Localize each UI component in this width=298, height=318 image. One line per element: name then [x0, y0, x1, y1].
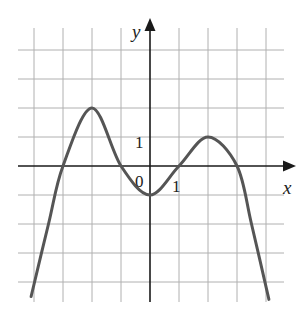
origin-label: 0 — [135, 172, 144, 191]
y-tick-label-1: 1 — [135, 133, 144, 152]
x-axis-arrow-icon — [283, 161, 296, 172]
x-axis-label: x — [282, 177, 292, 198]
x-tick-label-1: 1 — [172, 177, 181, 196]
function-graph: y x 0 1 1 — [0, 0, 298, 318]
y-axis-label: y — [130, 21, 141, 42]
grid-lines — [18, 28, 284, 302]
y-axis-arrow-icon — [145, 18, 156, 31]
axes — [18, 18, 296, 302]
